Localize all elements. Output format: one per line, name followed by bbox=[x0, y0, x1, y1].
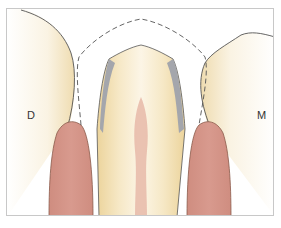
mesial-label: M bbox=[257, 109, 266, 121]
pulp-canal bbox=[134, 97, 148, 216]
tooth-preparation-diagram bbox=[7, 9, 274, 216]
diagram-frame: D M bbox=[6, 8, 274, 216]
distal-label: D bbox=[27, 109, 35, 121]
